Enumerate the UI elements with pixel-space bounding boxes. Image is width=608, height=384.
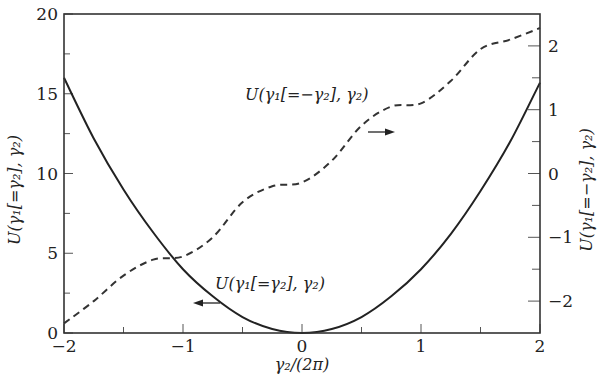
y-left-tick-label: 0 [47, 323, 58, 343]
x-tick-label: 2 [535, 336, 546, 356]
y-left-tick-label: 20 [36, 4, 58, 24]
chart: −2−101205101520−2−1012 γ₂/(2π) U(γ₁[=γ₂]… [0, 0, 608, 384]
y-axis-right-label: U(γ₁[=−γ₂], γ₂) [577, 128, 596, 251]
y-left-tick-label: 15 [36, 84, 58, 104]
annotation-dashed-label: U(γ₁[=−γ₂], γ₂) [245, 85, 368, 104]
x-tick-label: 1 [416, 336, 427, 356]
y-left-tick-label: 5 [47, 243, 58, 263]
y-right-tick-label: −1 [548, 227, 573, 247]
y-axis-left-label: U(γ₁[=γ₂], γ₂) [5, 135, 24, 245]
series-solid-line [64, 78, 540, 333]
y-right-tick-label: 1 [548, 100, 559, 120]
x-tick-label: 0 [297, 336, 308, 356]
y-right-tick-label: 2 [548, 36, 559, 56]
x-axis-label: γ₂/(2π) [275, 355, 330, 374]
y-right-tick-label: 0 [548, 164, 559, 184]
x-tick-label: −1 [170, 336, 195, 356]
arrow-right-icon [368, 129, 395, 136]
arrow-left-icon [193, 300, 220, 307]
y-left-tick-label: 10 [36, 164, 58, 184]
annotation-solid-label: U(γ₁[=γ₂], γ₂) [215, 274, 325, 293]
y-right-tick-label: −2 [548, 291, 573, 311]
